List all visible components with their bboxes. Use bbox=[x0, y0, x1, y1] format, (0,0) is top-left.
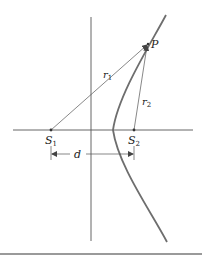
hyperbola-diagram: P r1 r2 S1 S2 d bbox=[0, 0, 202, 258]
label-s2: S2 bbox=[128, 134, 140, 148]
p-point bbox=[147, 43, 149, 45]
label-d: d bbox=[74, 148, 81, 161]
r1-line bbox=[51, 45, 147, 130]
s2-point bbox=[133, 129, 136, 132]
hyperbola-curve bbox=[113, 15, 167, 242]
bottom-rule bbox=[0, 253, 202, 255]
label-s1: S1 bbox=[45, 134, 57, 148]
s1-point bbox=[50, 129, 53, 132]
label-r2: r2 bbox=[142, 96, 151, 109]
label-p: P bbox=[150, 38, 159, 51]
label-r1: r1 bbox=[103, 69, 112, 82]
r2-line bbox=[134, 46, 147, 130]
